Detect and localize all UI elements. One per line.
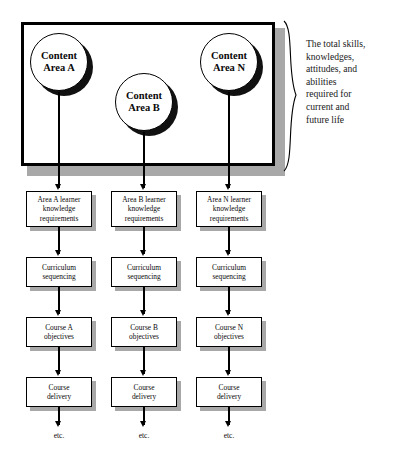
node-line-2: delivery xyxy=(217,392,241,401)
connector-circle-to-node1 xyxy=(228,92,229,188)
node-line-1: Area N learner xyxy=(207,195,251,204)
node-line-2: knowledge xyxy=(213,204,245,213)
node-curriculum-sequencing[interactable]: Curriculum sequencing xyxy=(196,257,262,287)
node-line-3: requirements xyxy=(210,214,249,223)
arrowhead-to-node2 xyxy=(225,250,231,256)
node-box: Course N objectives xyxy=(196,317,262,347)
curriculum-flow-diagram: Content Area A Content Area B Content Ar… xyxy=(0,0,395,455)
node-box: Curriculum sequencing xyxy=(196,257,262,287)
node-line-1: Curriculum xyxy=(212,263,246,272)
arrowhead-to-node4 xyxy=(225,370,231,376)
terminal-label-etc: etc. xyxy=(209,431,249,440)
node-area-learner-requirements[interactable]: Area N learner knowledge requirements xyxy=(196,191,262,227)
node-line-2: objectives xyxy=(214,332,244,341)
node-line-1: Course xyxy=(219,383,240,392)
node-box: Area N learner knowledge requirements xyxy=(196,191,262,227)
node-line-2: sequencing xyxy=(212,272,245,281)
node-course-objectives[interactable]: Course N objectives xyxy=(196,317,262,347)
arrowhead-to-node3 xyxy=(225,310,231,316)
column-n: Area N learner knowledge requirements Cu… xyxy=(0,0,395,455)
node-course-delivery[interactable]: Course delivery xyxy=(196,377,262,407)
node-box: Course delivery xyxy=(196,377,262,407)
arrowhead-to-terminal xyxy=(225,421,231,427)
arrowhead-to-node1 xyxy=(225,184,231,190)
node-line-1: Course N xyxy=(215,323,243,332)
